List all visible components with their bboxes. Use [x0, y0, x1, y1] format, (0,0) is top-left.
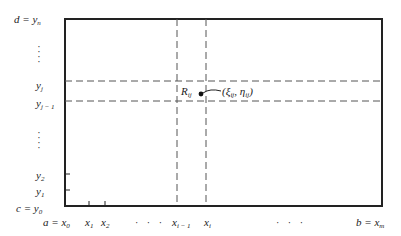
label-d-yn: d = yn: [14, 14, 41, 27]
label-point-xi-eta: (ξij, ηij): [222, 86, 253, 99]
region-frame: [65, 19, 382, 206]
label-region-rij: Rij: [181, 86, 192, 99]
partition-diagram: [0, 0, 401, 236]
label-yj: yj: [36, 80, 43, 93]
label-yj-1: yj − 1: [36, 98, 55, 111]
label-xi: xi: [204, 217, 211, 230]
label-y2: y2: [36, 170, 44, 183]
horizontal-ellipsis-right: · · ·: [276, 218, 306, 228]
sample-point: [199, 92, 204, 97]
label-y1: y1: [36, 186, 44, 199]
horizontal-ellipsis-left: · · ·: [135, 218, 165, 228]
vertical-ellipsis-bottom: ····: [37, 130, 41, 150]
label-c-y0: c = y0: [16, 203, 42, 216]
label-xi-1: xi − 1: [172, 217, 191, 230]
vertical-ellipsis-top: ····: [37, 44, 41, 64]
label-x2: x2: [101, 217, 109, 230]
label-x1: x1: [85, 217, 93, 230]
label-a-x0: a = x0: [43, 217, 70, 230]
label-b-xm: b = xm: [356, 217, 384, 230]
